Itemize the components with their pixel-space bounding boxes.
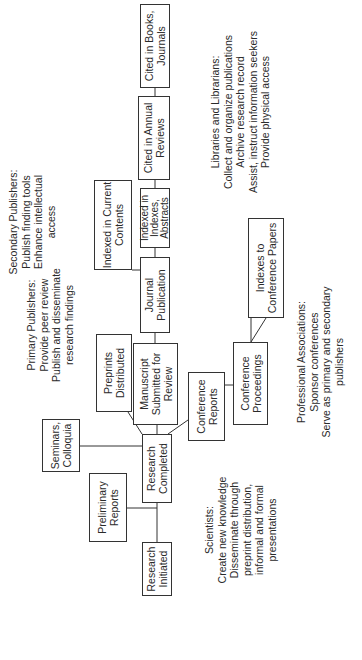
note-professional-associations: Professional Associations: Sponsor confe… (295, 286, 345, 437)
box-annual-reviews: Cited in Annual Reviews (138, 96, 170, 180)
box-indexes-abstracts: Indexed in Indexes, Abstracts (140, 188, 170, 248)
box-preprints-distributed: Preprints Distributed (96, 334, 132, 412)
note-secondary-publishers: Secondary Publishers: Publish finding to… (7, 169, 57, 274)
box-indexes-conference-papers: Indexes to Conference Papers (248, 218, 284, 318)
box-research-completed: Research Completed (142, 434, 172, 503)
box-conference-reports: Conference Reports (188, 372, 225, 441)
box-journal-publication: Journal Publication (140, 257, 170, 333)
box-manuscript-submitted: Manuscript Submitted for Review (133, 343, 178, 425)
box-research-initiated: Research Initiated (142, 542, 172, 596)
note-libraries: Libraries and Librarians: Collect and or… (209, 31, 272, 193)
box-current-contents: Indexed in Current Contents (94, 180, 132, 270)
box-books-journals: Cited in Books, Journals (140, 4, 170, 88)
note-scientists: Scientists: Create new knowledge Dissemi… (203, 477, 278, 584)
box-preliminary-reports: Preliminary Reports (89, 473, 127, 542)
research-communication-diagram: Research Initiated Preliminary Reports S… (0, 0, 362, 660)
box-conference-proceedings: Conference Proceedings (233, 342, 268, 425)
note-primary-publishers: Primary Publishers: Provide peer review … (25, 268, 75, 382)
box-seminars-colloquia: Seminars, Colloquia (42, 419, 80, 472)
